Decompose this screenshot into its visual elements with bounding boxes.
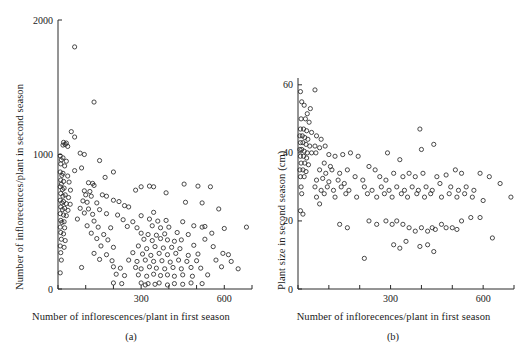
- data-point: [303, 117, 307, 121]
- data-point: [139, 231, 143, 235]
- data-point: [179, 238, 183, 242]
- data-point: [150, 238, 154, 242]
- data-point: [183, 200, 187, 204]
- data-point: [324, 171, 328, 175]
- data-point: [186, 232, 190, 236]
- data-point: [432, 142, 436, 146]
- data-point: [164, 191, 168, 195]
- data-point: [86, 181, 90, 185]
- data-point: [384, 219, 388, 223]
- y-tick-label: 1000: [33, 149, 53, 160]
- data-point: [63, 226, 67, 230]
- data-point: [367, 219, 371, 223]
- data-point: [73, 45, 77, 49]
- data-point: [208, 185, 212, 189]
- data-point: [104, 194, 108, 198]
- data-point: [175, 230, 179, 234]
- data-point: [103, 175, 107, 179]
- data-point: [401, 222, 405, 226]
- data-point: [178, 247, 182, 251]
- data-point: [59, 191, 63, 195]
- data-point: [449, 185, 453, 189]
- data-point: [152, 210, 156, 214]
- data-point: [236, 267, 240, 271]
- data-point: [405, 195, 409, 199]
- data-point: [370, 188, 374, 192]
- data-point: [114, 272, 118, 276]
- data-point: [192, 224, 196, 228]
- data-point: [139, 267, 143, 271]
- data-point: [84, 193, 88, 197]
- data-point: [131, 251, 135, 255]
- data-point: [174, 251, 178, 255]
- data-point: [229, 259, 233, 263]
- data-point: [146, 232, 150, 236]
- data-point: [333, 195, 337, 199]
- data-point: [152, 185, 156, 189]
- data-point: [78, 206, 82, 210]
- data-point: [300, 192, 304, 196]
- data-point: [181, 273, 185, 277]
- data-point: [407, 226, 411, 230]
- data-point: [139, 185, 143, 189]
- data-point: [306, 163, 310, 167]
- data-point: [338, 171, 342, 175]
- data-point: [163, 267, 167, 271]
- data-point: [134, 265, 138, 269]
- data-point: [158, 226, 162, 230]
- data-point: [459, 171, 463, 175]
- data-point: [145, 274, 149, 278]
- data-point: [226, 253, 230, 257]
- data-point: [167, 225, 171, 229]
- data-point: [313, 185, 317, 189]
- data-point: [305, 112, 309, 116]
- data-point: [325, 185, 329, 189]
- data-point: [390, 195, 394, 199]
- data-point: [172, 282, 176, 286]
- data-point: [385, 151, 389, 155]
- data-point: [152, 259, 156, 263]
- data-point: [165, 253, 169, 257]
- data-point: [353, 175, 357, 179]
- data-point: [189, 281, 193, 285]
- data-point: [348, 151, 352, 155]
- scatter-plot-a: 300600010002000: [0, 0, 262, 351]
- data-point: [154, 233, 158, 237]
- data-points: [58, 45, 248, 287]
- data-point: [149, 253, 153, 257]
- data-point: [118, 266, 122, 270]
- data-point: [339, 185, 343, 189]
- data-point: [413, 229, 417, 233]
- data-point: [344, 192, 348, 196]
- data-point: [89, 231, 93, 235]
- data-point: [67, 180, 71, 184]
- data-point: [211, 245, 215, 249]
- data-point: [421, 171, 425, 175]
- data-point: [395, 219, 399, 223]
- data-point: [313, 88, 317, 92]
- data-point: [481, 198, 485, 202]
- data-point: [100, 193, 104, 197]
- data-point: [444, 226, 448, 230]
- data-point: [424, 185, 428, 189]
- data-point: [172, 239, 176, 243]
- data-point: [392, 243, 396, 247]
- data-point: [135, 226, 139, 230]
- data-point: [382, 192, 386, 196]
- data-point: [78, 151, 82, 155]
- data-point: [97, 158, 101, 162]
- data-point: [125, 224, 129, 228]
- data-point: [362, 256, 366, 260]
- data-point: [200, 201, 204, 205]
- data-point: [439, 195, 443, 199]
- data-point: [163, 232, 167, 236]
- data-point: [194, 259, 198, 263]
- data-point: [172, 274, 176, 278]
- data-point: [110, 259, 114, 263]
- data-point: [323, 144, 327, 148]
- data-point: [206, 273, 210, 277]
- data-point: [299, 185, 303, 189]
- data-point: [196, 184, 200, 188]
- data-point: [176, 258, 180, 262]
- data-point: [221, 251, 225, 255]
